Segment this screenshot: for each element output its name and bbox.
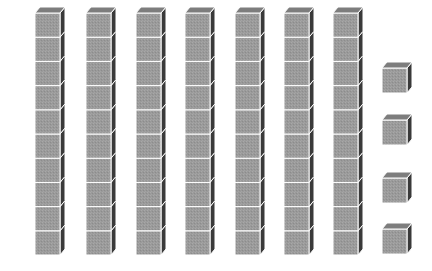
cube-front-face — [235, 158, 260, 182]
cube-front-face — [136, 13, 161, 37]
cube-front-face — [136, 86, 161, 110]
cube-top-face — [35, 7, 65, 13]
unit-cube — [382, 172, 412, 203]
cube-front-face — [185, 61, 210, 85]
tens-rod — [35, 7, 65, 255]
cube-front-face — [333, 134, 358, 158]
cube-top-face — [333, 7, 363, 13]
cube-front-face — [35, 158, 60, 182]
cube-front-face — [284, 110, 309, 134]
cube-front-face — [136, 182, 161, 206]
cube-top-face — [235, 7, 265, 13]
cube-front-face — [235, 86, 260, 110]
cube-top-face — [382, 114, 412, 120]
tens-rod — [235, 7, 265, 255]
cube-front-face — [333, 61, 358, 85]
cube-front-face — [86, 207, 111, 231]
cube-front-face — [86, 13, 111, 37]
cube-front-face — [136, 231, 161, 255]
cube-front-face — [185, 13, 210, 37]
rod-cube — [333, 7, 363, 37]
cube-front-face — [284, 207, 309, 231]
cube-front-face — [235, 13, 260, 37]
cube-front-face — [185, 207, 210, 231]
cube-top-face — [382, 62, 412, 68]
cube-front-face — [235, 134, 260, 158]
cube-front-face — [333, 37, 358, 61]
cube-front-face — [185, 158, 210, 182]
unit-cubes-group — [382, 62, 412, 254]
cube-front-face — [35, 61, 60, 85]
cube-front-face — [136, 134, 161, 158]
cube-front-face — [185, 86, 210, 110]
cube-front-face — [284, 158, 309, 182]
cube-front-face — [136, 207, 161, 231]
cube-front-face — [86, 231, 111, 255]
cube-front-face — [136, 61, 161, 85]
cube-front-face — [86, 134, 111, 158]
cube-front-face — [86, 61, 111, 85]
cube-front-face — [35, 110, 60, 134]
cube-front-face — [185, 110, 210, 134]
cube-front-face — [333, 86, 358, 110]
cube-front-face — [235, 37, 260, 61]
rod-cube — [185, 7, 215, 37]
cube-front-face — [35, 231, 60, 255]
cube-front-face — [284, 86, 309, 110]
cube-front-face — [35, 134, 60, 158]
rod-cube — [136, 7, 166, 37]
rod-cube — [86, 7, 116, 37]
cube-front-face — [86, 182, 111, 206]
cube-front-face — [382, 68, 407, 93]
cube-front-face — [284, 37, 309, 61]
cube-front-face — [333, 182, 358, 206]
cube-front-face — [284, 231, 309, 255]
cube-front-face — [136, 158, 161, 182]
cube-front-face — [333, 207, 358, 231]
cube-front-face — [185, 231, 210, 255]
cube-front-face — [35, 13, 60, 37]
cube-front-face — [333, 13, 358, 37]
cube-top-face — [136, 7, 166, 13]
unit-cube — [382, 114, 412, 145]
cube-front-face — [86, 110, 111, 134]
tens-rod — [333, 7, 363, 255]
cube-front-face — [86, 158, 111, 182]
tens-rods-group — [35, 7, 363, 255]
cube-top-face — [284, 7, 314, 13]
cube-front-face — [235, 207, 260, 231]
cube-front-face — [185, 134, 210, 158]
cube-front-face — [333, 110, 358, 134]
cube-front-face — [382, 178, 407, 203]
cube-front-face — [284, 134, 309, 158]
cube-front-face — [35, 37, 60, 61]
tens-rod — [284, 7, 314, 255]
cube-front-face — [136, 110, 161, 134]
base-ten-blocks-diagram — [0, 0, 432, 271]
cube-front-face — [382, 229, 407, 254]
cube-front-face — [235, 182, 260, 206]
unit-cube — [382, 223, 412, 254]
cube-front-face — [35, 182, 60, 206]
cube-top-face — [382, 172, 412, 178]
cube-front-face — [86, 86, 111, 110]
rod-cube — [284, 7, 314, 37]
rod-cube — [235, 7, 265, 37]
cube-front-face — [136, 37, 161, 61]
tens-rod — [136, 7, 166, 255]
rod-cube — [35, 7, 65, 37]
cube-front-face — [333, 158, 358, 182]
cube-front-face — [235, 231, 260, 255]
cube-front-face — [235, 61, 260, 85]
cube-top-face — [185, 7, 215, 13]
cube-front-face — [35, 86, 60, 110]
cube-top-face — [86, 7, 116, 13]
cube-top-face — [382, 223, 412, 229]
tens-rod — [86, 7, 116, 255]
cube-front-face — [185, 37, 210, 61]
cube-front-face — [86, 37, 111, 61]
cube-front-face — [284, 61, 309, 85]
cube-front-face — [35, 207, 60, 231]
cube-front-face — [235, 110, 260, 134]
cube-front-face — [333, 231, 358, 255]
